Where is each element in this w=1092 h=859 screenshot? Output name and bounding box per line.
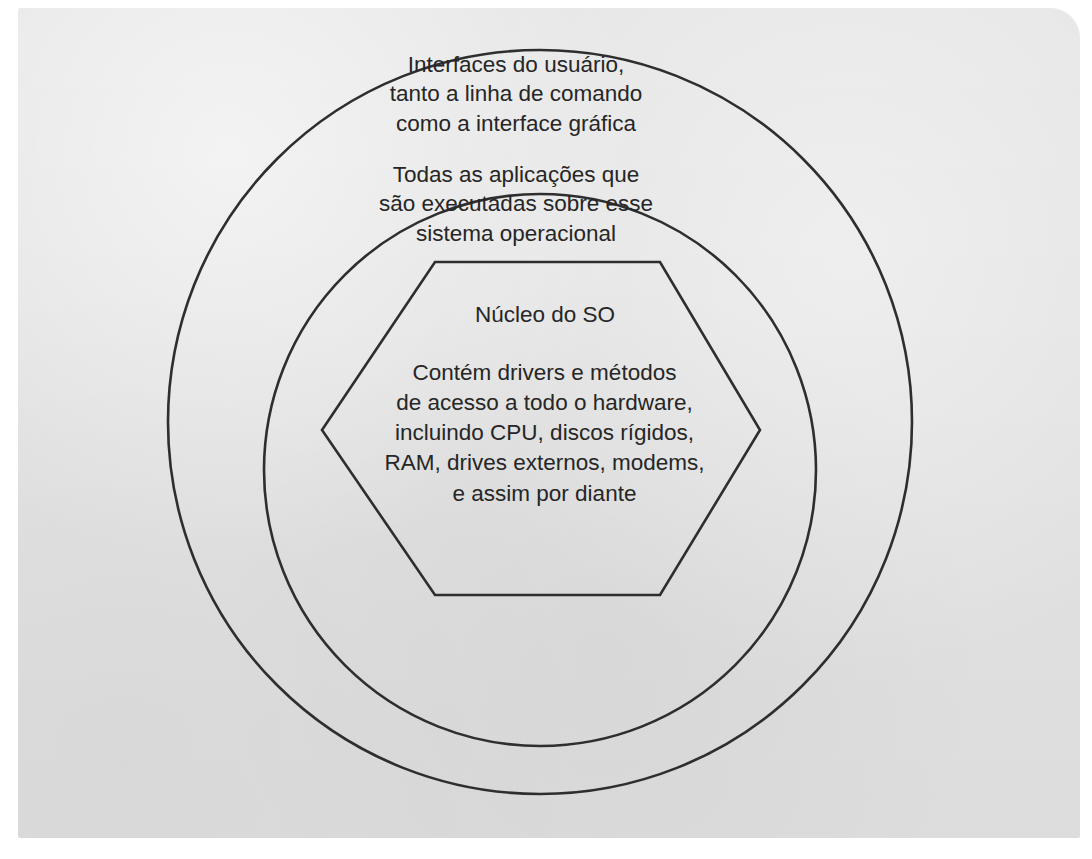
page-scan-area [18, 8, 1080, 838]
scanned-page: Interfaces do usuário, tanto a linha de … [0, 0, 1092, 859]
bottom-text-fragment [22, 845, 252, 857]
